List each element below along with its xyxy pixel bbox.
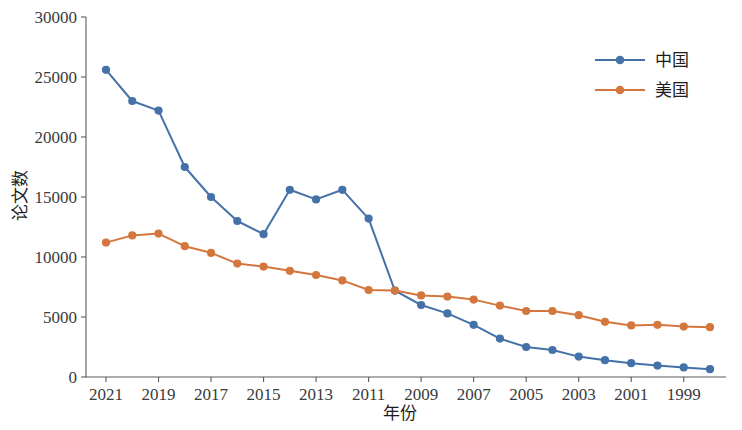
data-point-marker: [601, 356, 609, 364]
data-point-marker: [391, 287, 399, 295]
x-axis-labels: 2021201920172015201320112009200720052003…: [89, 385, 701, 404]
y-tick-label: 20000: [35, 128, 78, 147]
data-point-marker: [706, 365, 714, 373]
y-tick-label: 15000: [35, 188, 78, 207]
chart-legend: 中国美国: [595, 51, 689, 100]
x-tick-label: 2017: [194, 385, 229, 404]
data-point-marker: [207, 249, 215, 257]
data-point-marker: [548, 307, 556, 315]
x-tick-label: 2001: [614, 385, 648, 404]
data-point-marker: [181, 242, 189, 250]
data-point-marker: [207, 193, 215, 201]
data-point-marker: [443, 309, 451, 317]
data-point-marker: [128, 97, 136, 105]
x-tick-label: 2019: [142, 385, 176, 404]
x-tick-label: 2009: [404, 385, 438, 404]
data-point-marker: [496, 335, 504, 343]
data-point-marker: [548, 346, 556, 354]
data-point-marker: [470, 321, 478, 329]
legend-label: 中国: [655, 51, 689, 70]
data-point-marker: [706, 323, 714, 331]
y-axis-labels: 050001000015000200002500030000: [35, 8, 78, 387]
data-point-marker: [443, 293, 451, 301]
y-tick-label: 30000: [35, 8, 78, 27]
chart-canvas: 050001000015000200002500030000 202120192…: [0, 0, 742, 430]
x-tick-label: 2015: [247, 385, 281, 404]
data-point-marker: [627, 321, 635, 329]
data-series-group: [102, 66, 714, 374]
data-point-marker: [365, 215, 373, 223]
data-point-marker: [154, 230, 162, 238]
data-point-marker: [522, 343, 530, 351]
data-point-marker: [653, 362, 661, 370]
data-point-marker: [338, 276, 346, 284]
data-point-marker: [680, 323, 688, 331]
x-tick-label: 2005: [509, 385, 543, 404]
data-point-marker: [102, 239, 110, 247]
x-tick-label: 2011: [352, 385, 385, 404]
data-point-marker: [259, 230, 267, 238]
data-point-marker: [601, 318, 609, 326]
y-tick-label: 5000: [43, 308, 77, 327]
data-point-marker: [522, 307, 530, 315]
x-tick-label: 1999: [667, 385, 701, 404]
data-point-marker: [338, 186, 346, 194]
data-point-marker: [470, 296, 478, 304]
line-chart-figure: 050001000015000200002500030000 202120192…: [0, 0, 742, 430]
data-point-marker: [312, 271, 320, 279]
data-point-marker: [653, 321, 661, 329]
legend-label: 美国: [655, 81, 689, 100]
series-usa: [102, 230, 714, 332]
x-tick-label: 2013: [299, 385, 333, 404]
data-point-marker: [233, 217, 241, 225]
series-china: [102, 66, 714, 374]
legend-marker-icon: [616, 86, 625, 95]
data-point-marker: [496, 302, 504, 310]
data-point-marker: [575, 311, 583, 319]
y-tick-label: 0: [69, 368, 78, 387]
series-line: [106, 234, 710, 328]
x-tick-label: 2003: [562, 385, 596, 404]
data-point-marker: [575, 353, 583, 361]
data-point-marker: [102, 66, 110, 74]
y-axis-title: 论文数: [11, 170, 30, 221]
data-point-marker: [181, 163, 189, 171]
y-axis-tick-group: [81, 17, 86, 377]
data-point-marker: [128, 231, 136, 239]
x-tick-label: 2021: [89, 385, 123, 404]
data-point-marker: [259, 263, 267, 271]
data-point-marker: [627, 359, 635, 367]
data-point-marker: [286, 186, 294, 194]
data-point-marker: [365, 286, 373, 294]
data-point-marker: [312, 195, 320, 203]
data-point-marker: [233, 260, 241, 268]
data-point-marker: [154, 107, 162, 115]
x-axis-title: 年份: [383, 404, 417, 423]
legend-marker-icon: [616, 56, 625, 65]
data-point-marker: [417, 291, 425, 299]
data-point-marker: [286, 267, 294, 275]
y-tick-label: 25000: [35, 68, 78, 87]
data-point-marker: [417, 301, 425, 309]
x-tick-label: 2007: [457, 385, 492, 404]
data-point-marker: [680, 363, 688, 371]
y-tick-label: 10000: [35, 248, 78, 267]
x-axis-tick-group: [106, 377, 684, 382]
